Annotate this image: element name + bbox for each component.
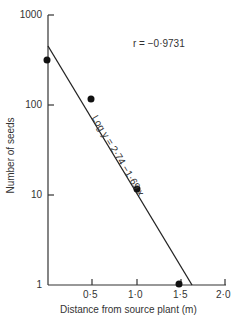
data-point <box>176 281 183 288</box>
data-point <box>44 57 51 64</box>
y-tick-label: 100 <box>25 99 42 110</box>
x-tick-label: 2·0 <box>216 289 230 300</box>
x-tick-label: 1·0 <box>128 289 142 300</box>
y-axis-title: Number of seeds <box>5 117 16 193</box>
x-tick-label: 0·5 <box>83 289 97 300</box>
y-tick-label: 1 <box>36 279 42 290</box>
y-tick-label: 1000 <box>20 9 42 20</box>
correlation-annotation: r = −0·9731 <box>133 38 185 49</box>
x-tick-label: 1·5 <box>173 289 187 300</box>
x-axis-title: Distance from source plant (m) <box>60 304 197 315</box>
data-point <box>88 96 95 103</box>
y-tick-label: 10 <box>31 189 42 200</box>
